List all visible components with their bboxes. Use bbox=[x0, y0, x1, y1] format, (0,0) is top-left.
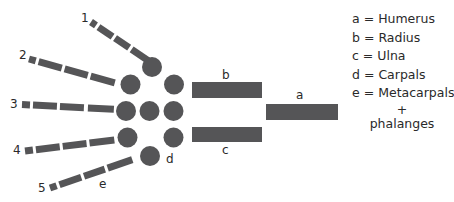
finger-label-2: 2 bbox=[19, 48, 27, 62]
finger-1: 1 bbox=[81, 11, 150, 63]
phalanx bbox=[22, 101, 30, 108]
carpal-bone bbox=[164, 128, 184, 148]
legend-sep: = bbox=[363, 48, 373, 63]
phalanx bbox=[60, 103, 84, 111]
legend-value: Carpals bbox=[378, 67, 425, 82]
legend-plus: + bbox=[352, 104, 452, 116]
carpal-bone bbox=[164, 101, 184, 121]
metacarpal bbox=[90, 73, 116, 86]
carpal-bone bbox=[121, 75, 141, 95]
legend-key: b bbox=[352, 30, 360, 45]
legend-item-a: a = Humerus bbox=[352, 10, 454, 29]
legend-key: d bbox=[352, 67, 360, 82]
legend-value: Radius bbox=[378, 30, 420, 45]
phalanx bbox=[89, 19, 98, 28]
finger-3: 3 bbox=[10, 97, 114, 113]
phalanx bbox=[49, 182, 58, 191]
finger-4: 4 bbox=[13, 137, 115, 157]
legend: a = Humerus b = Radius c = Ulna d = Carp… bbox=[352, 10, 454, 132]
carpal-bone bbox=[118, 128, 138, 148]
legend-item-b: b = Radius bbox=[352, 29, 454, 48]
legend-sep: = bbox=[364, 67, 374, 82]
humerus-bone bbox=[266, 104, 338, 120]
legend-sep: = bbox=[364, 30, 374, 45]
label-a: a bbox=[296, 88, 303, 102]
carpal-bone bbox=[142, 57, 162, 77]
finger-label-4: 4 bbox=[13, 143, 21, 157]
metacarpal bbox=[89, 137, 115, 147]
legend-value: Metacarpals bbox=[378, 85, 454, 100]
carpal-bone bbox=[140, 101, 160, 121]
label-b: b bbox=[222, 68, 230, 82]
label-c: c bbox=[222, 143, 229, 157]
finger-2: 2 bbox=[19, 48, 116, 86]
finger-label-5: 5 bbox=[38, 181, 46, 195]
label-e: e bbox=[99, 177, 106, 191]
legend-item-e: e = Metacarpals bbox=[352, 84, 454, 103]
finger-label-3: 3 bbox=[10, 97, 18, 111]
legend-item-d: d = Carpals bbox=[352, 66, 454, 85]
legend-value: Humerus bbox=[378, 11, 435, 26]
legend-key: c bbox=[352, 48, 359, 63]
phalanx bbox=[62, 140, 87, 150]
carpal-bone bbox=[164, 75, 184, 95]
ulna-bone bbox=[192, 127, 262, 142]
legend-key: e bbox=[352, 85, 360, 100]
legend-sep: = bbox=[364, 85, 374, 100]
legend-value: Ulna bbox=[377, 48, 405, 63]
label-d: d bbox=[166, 152, 174, 166]
phalanx bbox=[28, 56, 37, 65]
legend-item-c: c = Ulna bbox=[352, 47, 454, 66]
phalanx bbox=[33, 102, 57, 110]
carpal-bone bbox=[116, 101, 136, 121]
metacarpal bbox=[88, 104, 114, 112]
finger-label-1: 1 bbox=[81, 11, 89, 25]
legend-continuation: phalanges bbox=[352, 116, 452, 132]
legend-key: a bbox=[352, 11, 360, 26]
legend-sep: = bbox=[364, 11, 374, 26]
finger-5: 5 bbox=[38, 156, 133, 195]
phalanx bbox=[35, 143, 60, 153]
phalanx bbox=[58, 174, 82, 188]
radius-bone bbox=[192, 82, 262, 98]
carpals bbox=[116, 57, 184, 166]
phalanx bbox=[25, 147, 34, 155]
metacarpal bbox=[107, 156, 134, 171]
carpal-bone bbox=[140, 146, 160, 166]
phalanx bbox=[38, 58, 63, 71]
phalanx bbox=[64, 66, 89, 79]
phalanx bbox=[113, 35, 131, 50]
phalanx bbox=[97, 24, 115, 39]
